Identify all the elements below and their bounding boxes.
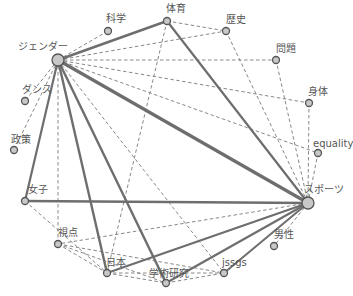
- node-label-gakujutsu: 学術研究: [149, 267, 189, 279]
- node-label-kagaku: 科学: [106, 12, 126, 24]
- node-label-nihon: 日本: [106, 256, 126, 268]
- node-label-jssgs: jssgs: [221, 257, 247, 268]
- node-label-joshi: 女子: [28, 183, 48, 195]
- node-label-shintai: 身体: [308, 85, 328, 97]
- edge-shiten-jssgs: [58, 244, 224, 273]
- node-equality: [315, 150, 322, 157]
- node-joshi: [22, 198, 29, 205]
- node-label-dansei: 男性: [274, 228, 294, 240]
- node-dance: [22, 98, 29, 105]
- node-label-taiiku: 体育: [166, 2, 186, 14]
- node-label-sports: スポーツ: [304, 184, 344, 195]
- node-label-seisaku: 政策: [11, 133, 31, 145]
- edge-equality-sports: [308, 153, 318, 203]
- node-kagaku: [105, 28, 112, 35]
- node-shiten: [55, 241, 62, 248]
- node-mondai: [273, 57, 280, 64]
- edge-taiiku-nihon: [107, 21, 167, 273]
- node-label-equality: equality: [313, 138, 353, 149]
- edge-joshi-sports: [25, 201, 308, 203]
- node-gakujutsu: [163, 280, 170, 287]
- node-label-mondai: 問題: [276, 43, 296, 54]
- node-rekishi: [223, 28, 230, 35]
- edge-gender-rekishi: [58, 31, 226, 60]
- labels-layer: ジェンダー科学体育歴史問題身体equalityスポーツ男性jssgs学術研究日本…: [11, 2, 353, 279]
- node-nihon: [104, 270, 111, 277]
- node-label-dance: ダンス: [22, 83, 52, 95]
- node-label-rekishi: 歴史: [226, 14, 246, 25]
- node-sports: [302, 197, 314, 209]
- edge-rekishi-sports: [226, 31, 308, 203]
- node-seisaku: [11, 147, 18, 154]
- nodes-layer: [11, 18, 322, 287]
- node-shintai: [306, 100, 313, 107]
- node-gender: [52, 54, 64, 66]
- node-jssgs: [221, 270, 228, 277]
- edge-taiiku-rekishi: [167, 21, 226, 31]
- node-dansei: [271, 243, 278, 250]
- node-label-gender: ジェンダー: [18, 40, 68, 52]
- edge-gender-nihon: [58, 60, 107, 273]
- node-taiiku: [164, 18, 171, 25]
- co-occurrence-network: ジェンダー科学体育歴史問題身体equalityスポーツ男性jssgs学術研究日本…: [0, 0, 353, 296]
- node-label-shiten: 視点: [58, 226, 78, 238]
- edge-gender-taiiku: [58, 21, 167, 60]
